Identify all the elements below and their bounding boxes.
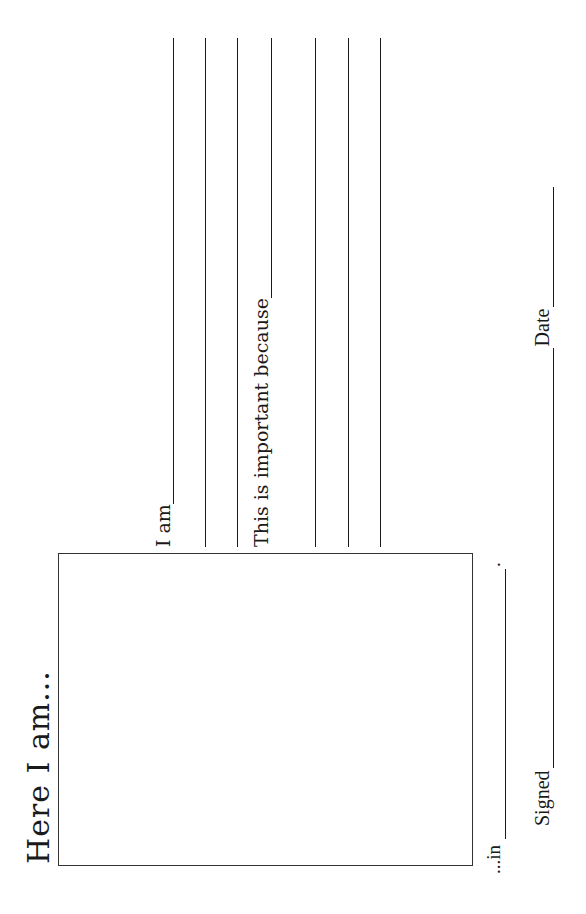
drawing-box[interactable] (58, 553, 473, 866)
importance-prompt: This is important because (250, 38, 272, 547)
signature-blank[interactable] (535, 348, 554, 768)
date-label: Date (530, 309, 554, 347)
location-blank[interactable] (487, 569, 506, 839)
i-am-blank[interactable] (155, 38, 174, 504)
location-prompt: ...in . (482, 562, 506, 874)
date-blank[interactable] (535, 187, 554, 307)
importance-line-3[interactable] (348, 38, 349, 547)
signed-label: Signed (530, 770, 554, 826)
i-am-line-3[interactable] (237, 38, 238, 547)
importance-blank[interactable] (253, 38, 272, 298)
location-terminator: . (482, 562, 506, 567)
importance-label: This is important because (250, 298, 272, 547)
i-am-prompt: I am (152, 38, 174, 547)
i-am-line-2[interactable] (205, 38, 206, 547)
importance-line-4[interactable] (380, 38, 381, 547)
location-label: ...in (482, 845, 506, 874)
signature-row: Signed Date (530, 26, 554, 826)
importance-line-2[interactable] (315, 38, 316, 547)
worksheet-page: Here I am... ...in . I am This is import… (0, 0, 586, 914)
worksheet-title: Here I am... (22, 670, 56, 864)
i-am-label: I am (152, 504, 174, 547)
